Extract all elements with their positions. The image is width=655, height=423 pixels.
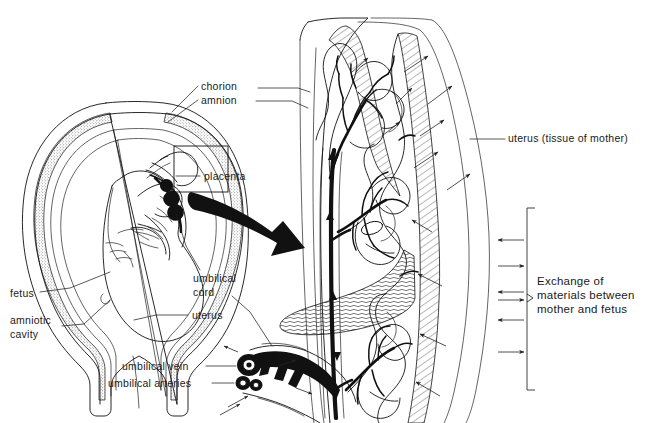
label-uterus: uterus <box>192 309 223 322</box>
villus-tree-2 <box>338 144 410 265</box>
placenta-left-panel <box>146 163 186 247</box>
label-chorion: chorion <box>201 80 237 93</box>
label-umbilical-vein: umbilical vein <box>122 360 189 373</box>
label-amnion: amnion <box>201 94 237 107</box>
label-amniotic-cavity-line2: cavity <box>10 328 38 341</box>
label-umbilical-cord-line2: cord <box>193 286 214 299</box>
right-panel-placenta-enlargement <box>220 18 489 423</box>
diagram-canvas <box>0 0 655 423</box>
label-umbilical-arteries: umbilical arteries <box>108 377 191 390</box>
placenta-diagram-figure: chorion amnion placenta umbilical cord f… <box>0 0 655 423</box>
exchange-bracket <box>527 208 535 390</box>
fetus-figure <box>101 152 204 341</box>
label-fetus: fetus <box>10 287 34 300</box>
label-exchange-line3: mother and fetus <box>537 302 627 316</box>
label-exchange-line2: materials between <box>537 288 635 302</box>
label-exchange-line1: Exchange of <box>537 274 604 288</box>
exchange-arrow-pairs <box>498 240 524 352</box>
label-uterus-tissue-of-mother: uterus (tissue of mother) <box>508 132 628 145</box>
label-placenta: placenta <box>204 170 246 183</box>
label-amniotic-cavity-line1: amniotic <box>10 314 51 327</box>
label-umbilical-cord-line1: umbilical <box>193 272 236 285</box>
